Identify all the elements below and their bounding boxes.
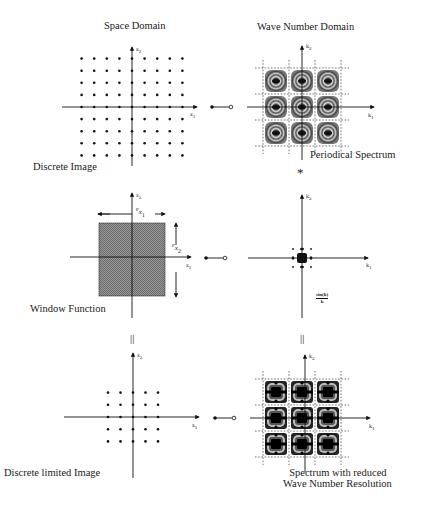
discrete-limited-image bbox=[64, 353, 199, 478]
sinc-spectrum bbox=[248, 195, 368, 318]
sinc-main-lobe bbox=[297, 253, 307, 263]
space-domain-discrete-image bbox=[62, 47, 197, 166]
sinc-numerator: sin(k) bbox=[316, 292, 328, 299]
fourier-pair-connector-1 bbox=[210, 105, 233, 109]
fourier-pair-connector-3 bbox=[213, 416, 236, 420]
periodical-spectrum bbox=[247, 46, 374, 160]
caption-line-1: Spectrum with reduced bbox=[284, 467, 392, 478]
window-function-plot bbox=[70, 193, 191, 318]
convolution-operator: * bbox=[297, 165, 304, 181]
x1-axis-label: x1 bbox=[192, 422, 197, 430]
k2-axis-label: k2 bbox=[306, 43, 312, 51]
k1-axis-label: k1 bbox=[366, 262, 372, 270]
k2-axis-label: k2 bbox=[309, 353, 315, 361]
x2-axis-label: x2 bbox=[136, 46, 141, 54]
x1-axis-label: x1 bbox=[190, 111, 195, 119]
x2-axis-label: x2 bbox=[137, 352, 142, 360]
sinc-label: sin(k) k bbox=[316, 292, 328, 305]
wave-number-domain-title: Wave Number Domain bbox=[257, 21, 354, 32]
discrete-image-caption: Discrete Image bbox=[33, 161, 97, 172]
k1-axis-label: k1 bbox=[369, 423, 375, 431]
k1-axis-label: k1 bbox=[368, 112, 374, 120]
reduced-resolution-caption: Spectrum with reduced Wave Number Resolu… bbox=[290, 467, 392, 489]
discrete-limited-image-caption: Discrete limited Image bbox=[4, 467, 100, 478]
equals-operator-right: || bbox=[300, 332, 304, 344]
px2-label: Px2 bbox=[172, 243, 181, 254]
equals-operator-left: || bbox=[130, 332, 134, 344]
fourier-pair-connector-2 bbox=[204, 256, 227, 260]
caption-line-2: Wave Number Resolution bbox=[283, 478, 392, 489]
diagram-canvas bbox=[0, 0, 423, 506]
window-function-caption: Window Function bbox=[30, 303, 106, 314]
x2-axis-label: x2 bbox=[136, 192, 141, 200]
x1-axis-label: x1 bbox=[186, 262, 191, 270]
px1-label: Px1 bbox=[136, 207, 145, 218]
reduced-resolution-spectrum bbox=[250, 355, 370, 472]
periodical-spectrum-caption: Periodical Spectrum bbox=[310, 149, 395, 160]
sinc-denominator: k bbox=[316, 299, 328, 305]
space-domain-title: Space Domain bbox=[104, 20, 166, 31]
k2-axis-label: k2 bbox=[306, 193, 312, 201]
